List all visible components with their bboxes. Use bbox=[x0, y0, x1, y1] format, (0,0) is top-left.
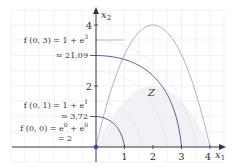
region-z-label: Z bbox=[147, 87, 156, 98]
x-tick-1: 1 bbox=[121, 151, 127, 162]
x-tick-2: 2 bbox=[150, 151, 156, 162]
annotation-f-0-0-line2: = 2 bbox=[58, 134, 72, 143]
y-tick-2: 2 bbox=[86, 81, 92, 92]
annotation-f-0-1-line1: f (0, 1) = 1 + e1 bbox=[24, 98, 88, 110]
diagram-canvas: 1 2 3 4 2 4 x1 x2 Z f (0, 3) = 1 + e3 ≈ … bbox=[0, 0, 237, 168]
annotation-f-0-1-line2: ≈ 3,72 bbox=[61, 112, 88, 121]
x-tick-4: 4 bbox=[205, 151, 211, 162]
annotation-f-0-3-line1: f (0, 3) = 1 + e3 bbox=[24, 33, 88, 45]
y-tick-4: 4 bbox=[86, 20, 92, 31]
x-tick-3: 3 bbox=[178, 151, 184, 162]
y-axis-label: x2 bbox=[101, 9, 111, 22]
x-axis-label: x1 bbox=[215, 149, 225, 162]
y-axis-arrow-icon bbox=[93, 7, 99, 14]
origin-point bbox=[94, 145, 98, 149]
annotation-f-0-3-line2: ≈ 21,09 bbox=[56, 51, 88, 60]
